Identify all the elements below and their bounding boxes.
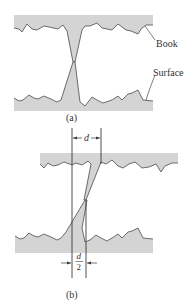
- friction-contact-diagram: Book Surface (a) d d 2 (b): [0, 0, 195, 301]
- book-label: Book: [156, 38, 178, 49]
- panel-b: d d 2 (b): [15, 128, 178, 301]
- caption-a: (a): [66, 112, 77, 124]
- book-block-b: [40, 153, 178, 200]
- arrowhead-left-icon: [73, 137, 77, 140]
- arrowhead-half-left-icon: [67, 262, 71, 265]
- book-block-a: [14, 15, 153, 62]
- arrowhead-right-icon: [96, 137, 100, 140]
- surface-block-a: [14, 62, 153, 111]
- caption-b: (b): [66, 289, 78, 301]
- arrowhead-half-right-icon: [87, 262, 91, 265]
- surface-leader-line: [146, 75, 155, 100]
- panel-a: Book Surface (a): [14, 15, 184, 124]
- surface-block-b: [15, 200, 153, 253]
- dimension-half-denominator: 2: [77, 262, 82, 272]
- book-edge-b: [40, 160, 178, 200]
- dimension-half-numerator: d: [77, 251, 82, 261]
- book-leader-line: [145, 26, 155, 40]
- surface-label: Surface: [153, 67, 184, 78]
